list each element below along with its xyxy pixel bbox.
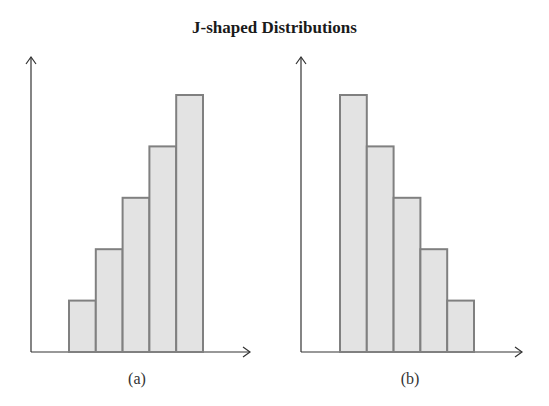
bar bbox=[420, 249, 447, 352]
chart-b bbox=[296, 57, 522, 357]
caption-a: (a) bbox=[107, 370, 167, 388]
bar bbox=[447, 301, 474, 352]
bar bbox=[340, 95, 367, 352]
bar bbox=[394, 198, 421, 352]
caption-b: (b) bbox=[380, 370, 440, 388]
histogram-pair bbox=[0, 0, 549, 406]
bar bbox=[123, 198, 150, 352]
bar bbox=[176, 95, 203, 352]
chart-a bbox=[26, 57, 250, 357]
bar bbox=[96, 249, 123, 352]
bar bbox=[69, 301, 96, 352]
bar bbox=[149, 146, 176, 352]
bar bbox=[367, 146, 394, 352]
